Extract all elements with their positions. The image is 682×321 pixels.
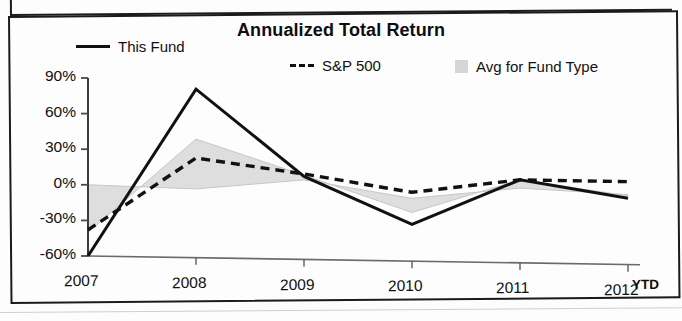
y-tick-label: 30% [14,138,76,156]
x-tick-label: 2009 [280,275,315,293]
x-tick-label: 2011 [496,279,530,297]
x-tick-label: 2010 [388,277,423,295]
x-tick-label: 2008 [172,274,207,292]
y-tick-label: 0% [14,174,76,192]
y-tick-label: -30% [14,209,76,227]
y-tick-label: -60% [14,245,76,263]
y-tick-label: 60% [14,103,76,121]
y-tick-label: 90% [14,67,76,85]
x-tick-label: 2007 [64,272,99,290]
x-axis-ytd-note: YTD [632,277,659,292]
plot-canvas [0,0,682,321]
annualized-total-return-chart: Annualized Total Return This Fund S&P 50… [0,0,682,321]
